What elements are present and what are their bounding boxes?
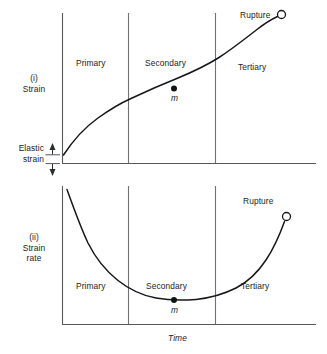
strain-rate-rupture-label: Rupture: [243, 196, 274, 206]
strain-region-label-tertiary: Tertiary: [238, 62, 266, 72]
strain-point-m-marker: [171, 86, 177, 92]
elastic-strain-label: Elastic strain: [4, 143, 44, 164]
strain-rupture-label: Rupture: [240, 10, 271, 20]
time-axis-label: Time: [168, 333, 187, 343]
strain-rate-region-label-secondary: Secondary: [146, 281, 187, 291]
strain-region-label-secondary: Secondary: [145, 58, 186, 68]
strain-rate-rupture-marker: [283, 213, 291, 221]
strain-panel-enumerator: (i): [13, 73, 55, 84]
elastic-strain-upper-arrow-head: [50, 143, 56, 150]
strain-rate-y-axis-label-line2: rate: [13, 253, 55, 264]
creep-curve-figure: (i) Strain Elastic strain Primary Second…: [0, 0, 327, 354]
strain-rate-panel-enumerator: (ii): [13, 232, 55, 243]
strain-y-axis-label: Strain: [13, 84, 55, 95]
strain-rate-point-m-marker: [171, 297, 177, 303]
strain-rupture-marker: [278, 11, 286, 19]
strain-region-label-primary: Primary: [76, 58, 106, 68]
strain-point-m-label: m: [171, 93, 178, 103]
strain-rate-panel-graphics: [62, 186, 316, 325]
elastic-strain-lower-arrow-head: [50, 169, 56, 176]
strain-rate-region-label-primary: Primary: [76, 281, 106, 291]
strain-panel-graphics: [46, 11, 317, 177]
elastic-strain-label-line2: strain: [4, 154, 44, 165]
strain-rate-y-axis-label-line1: Strain: [13, 243, 55, 254]
elastic-strain-label-line1: Elastic: [4, 143, 44, 154]
strain-rate-point-m-label: m: [171, 305, 178, 315]
strain-y-axis-title: (i) Strain: [13, 73, 55, 94]
strain-rate-region-label-tertiary: Tertiary: [241, 281, 269, 291]
strain-rate-y-axis-title: (ii) Strain rate: [13, 232, 55, 264]
strain-curve: [64, 17, 278, 156]
